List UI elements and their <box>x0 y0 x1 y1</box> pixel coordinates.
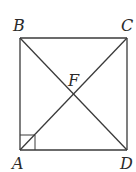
diagram-canvas: B C F A D <box>0 0 136 172</box>
label-b: B <box>12 16 25 35</box>
geometry-diagram: B C F A D <box>0 0 136 172</box>
label-a: A <box>10 154 24 172</box>
label-c: C <box>121 16 133 35</box>
label-d: D <box>119 154 133 172</box>
label-f: F <box>67 71 80 90</box>
